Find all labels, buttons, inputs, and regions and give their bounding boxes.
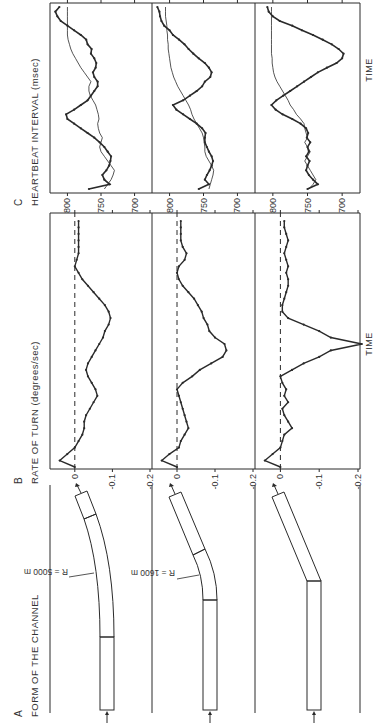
data-point bbox=[322, 39, 324, 41]
data-point bbox=[81, 278, 83, 280]
data-point bbox=[180, 239, 182, 241]
data-point bbox=[214, 336, 216, 338]
data-point bbox=[158, 11, 160, 13]
data-point bbox=[301, 29, 303, 31]
channel-curved-segment bbox=[193, 549, 217, 600]
data-point bbox=[178, 265, 180, 267]
data-point bbox=[180, 440, 182, 442]
data-point bbox=[184, 434, 186, 436]
data-point bbox=[89, 408, 91, 410]
data-point bbox=[268, 11, 270, 13]
data-point bbox=[191, 375, 193, 377]
data-point bbox=[168, 453, 170, 455]
data-point bbox=[77, 226, 79, 228]
radius-label: R = 5000 m bbox=[24, 567, 68, 577]
data-point bbox=[85, 369, 87, 371]
data-point bbox=[338, 48, 340, 50]
data-point bbox=[287, 285, 289, 287]
data-point bbox=[175, 109, 177, 111]
data-point bbox=[94, 349, 96, 351]
y-tick-label: -0.2 bbox=[248, 474, 258, 490]
data-point bbox=[87, 285, 89, 287]
data-point bbox=[204, 81, 206, 83]
data-point bbox=[77, 233, 79, 235]
y-tick-label: 0 bbox=[70, 474, 80, 479]
data-point bbox=[326, 67, 328, 69]
data-point bbox=[281, 113, 283, 115]
data-point bbox=[66, 25, 68, 27]
time-axis-label-c: TIME bbox=[364, 58, 374, 82]
time-axis-label-b: TIME bbox=[364, 332, 374, 356]
y-tick-label: 750 bbox=[199, 198, 209, 213]
arrow-head-icon bbox=[312, 711, 316, 715]
data-point bbox=[104, 330, 106, 332]
data-point bbox=[275, 109, 277, 111]
data-point bbox=[264, 459, 266, 461]
arrow-head-icon bbox=[208, 711, 212, 715]
data-point bbox=[283, 252, 285, 254]
rate-of-turn-line bbox=[162, 221, 227, 467]
data-point bbox=[291, 118, 293, 120]
rate-of-turn-line bbox=[60, 221, 111, 467]
data-point bbox=[95, 67, 97, 69]
data-point bbox=[189, 118, 191, 120]
data-point bbox=[184, 414, 186, 416]
data-point bbox=[318, 356, 320, 358]
data-point bbox=[272, 15, 274, 17]
panel-rate-of-turn: 0-0.1-0.20-0.1-0.20-0.1-0.2 bbox=[50, 210, 363, 490]
data-point bbox=[90, 95, 92, 97]
data-point bbox=[285, 246, 287, 248]
data-point bbox=[73, 29, 75, 31]
data-point bbox=[90, 53, 92, 55]
data-point bbox=[204, 141, 206, 143]
data-point bbox=[178, 446, 180, 448]
panel-b-title: RATE OF TURN (degrees/sec) bbox=[29, 341, 40, 484]
data-point bbox=[91, 48, 93, 50]
data-point bbox=[222, 356, 224, 358]
data-point bbox=[92, 71, 94, 73]
data-point bbox=[87, 362, 89, 364]
y-tick-label: 0 bbox=[275, 474, 285, 479]
data-point bbox=[201, 85, 203, 87]
data-point bbox=[309, 141, 311, 143]
data-point bbox=[178, 395, 180, 397]
data-point bbox=[83, 427, 85, 429]
data-point bbox=[317, 183, 319, 185]
data-point bbox=[211, 155, 213, 157]
panel-a-letter: A bbox=[13, 710, 24, 717]
y-tick-label: 800 bbox=[268, 198, 278, 213]
data-point bbox=[291, 25, 293, 27]
data-point bbox=[305, 169, 307, 171]
y-tick-label: 700 bbox=[337, 198, 347, 213]
data-point bbox=[180, 233, 182, 235]
data-point bbox=[77, 220, 79, 222]
data-point bbox=[192, 53, 194, 55]
data-point bbox=[184, 259, 186, 261]
data-point bbox=[287, 239, 289, 241]
data-point bbox=[176, 466, 178, 468]
data-point bbox=[282, 95, 284, 97]
y-tick-label: 750 bbox=[303, 198, 313, 213]
data-point bbox=[285, 259, 287, 261]
data-point bbox=[287, 421, 289, 423]
data-point bbox=[305, 155, 307, 157]
data-point bbox=[109, 317, 111, 319]
data-point bbox=[96, 395, 98, 397]
data-point bbox=[283, 414, 285, 416]
data-point bbox=[285, 272, 287, 274]
arrow-head-icon bbox=[105, 711, 109, 715]
data-point bbox=[85, 39, 87, 41]
data-point bbox=[60, 20, 62, 22]
data-point bbox=[168, 29, 170, 31]
arrow-head-icon bbox=[75, 483, 80, 487]
data-point bbox=[201, 311, 203, 313]
data-point bbox=[291, 427, 293, 429]
data-point bbox=[198, 57, 200, 59]
data-point bbox=[206, 323, 208, 325]
y-tick-label: -0.2 bbox=[145, 474, 155, 490]
data-point bbox=[86, 43, 88, 45]
y-tick-label: -0.1 bbox=[107, 474, 117, 490]
data-point bbox=[212, 160, 214, 162]
data-point bbox=[109, 183, 111, 185]
data-point bbox=[272, 453, 274, 455]
